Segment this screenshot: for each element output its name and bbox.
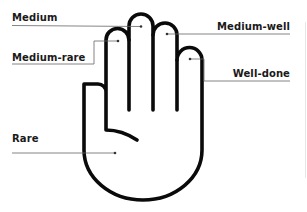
dot-well-done	[189, 58, 192, 61]
dot-medium	[140, 25, 143, 28]
label-medium-rare: Medium-rare	[12, 52, 86, 63]
hand-silhouette	[84, 14, 202, 200]
label-medium: Medium	[12, 12, 57, 23]
label-rare: Rare	[12, 133, 39, 144]
label-well-done: Well-done	[233, 68, 290, 79]
dot-medium-rare	[117, 40, 120, 43]
label-medium-well: Medium-well	[217, 21, 290, 32]
leader-medium	[12, 26, 141, 27]
dot-rare	[114, 152, 117, 155]
dot-medium-well	[166, 33, 169, 36]
hand-outline	[84, 14, 202, 200]
leader-lines	[12, 26, 290, 154]
